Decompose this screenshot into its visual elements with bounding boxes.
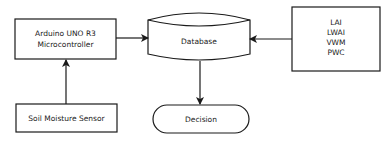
node-indices: LAI LWAI VWM PWC: [292, 7, 380, 71]
node-soil-sensor: Soil Moisture Sensor: [16, 104, 117, 132]
indices-label-lwai: LWAI: [327, 28, 345, 37]
database-label: Database: [181, 37, 217, 46]
decision-label: Decision: [185, 115, 217, 124]
node-arduino: Arduino UNO R3 Microcontroller: [15, 19, 116, 59]
indices-label-lai: LAI: [330, 18, 342, 27]
soil-sensor-label: Soil Moisture Sensor: [28, 114, 105, 123]
arduino-label-line2: Microcontroller: [38, 40, 95, 49]
node-database: Database: [148, 13, 250, 60]
flow-diagram: Arduino UNO R3 Microcontroller Soil Mois…: [0, 0, 392, 142]
arduino-label-line1: Arduino UNO R3: [35, 29, 96, 38]
indices-label-pwc: PWC: [327, 48, 344, 57]
node-decision: Decision: [153, 105, 249, 133]
indices-label-vwm: VWM: [326, 38, 345, 47]
